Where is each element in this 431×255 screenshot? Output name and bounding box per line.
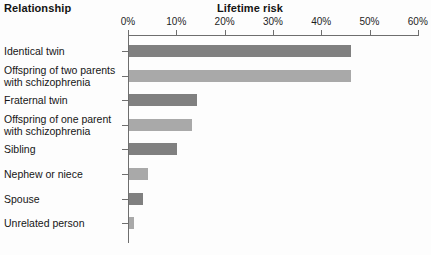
x-axis-tick-mark [418,30,419,35]
category-label: Offspring of two parents with schizophre… [4,64,115,88]
y-axis-tick-mark [122,223,128,224]
category-label: Unrelated person [4,217,85,229]
category-label: Identical twin [4,45,65,57]
x-axis-tick-mark [273,30,274,35]
category-label: Nephew or niece [4,168,83,180]
y-axis-tick-mark [122,199,128,200]
bar [129,119,192,131]
y-axis-tick-mark [122,51,128,52]
x-axis-tick-mark [370,30,371,35]
bar [129,45,351,57]
x-axis-tick-mark [321,30,322,35]
y-axis-tick-mark [122,76,128,77]
bar [129,143,177,155]
x-axis-tick-mark [176,30,177,35]
x-axis-tick-mark [225,30,226,35]
y-axis-tick-mark [122,174,128,175]
lifetime-risk-chart: Relationship Lifetime risk 0%10%20%30%40… [0,0,431,255]
bar [129,168,148,180]
category-label: Fraternal twin [4,94,68,106]
category-label: Sibling [4,143,36,155]
x-axis-tick-mark [128,30,129,35]
plot-area: Identical twinOffspring of two parents w… [0,0,431,255]
y-axis-tick-mark [122,149,128,150]
bar [129,193,143,205]
category-label: Spouse [4,193,40,205]
category-label: Offspring of one parent with schizophren… [4,113,111,137]
y-axis-tick-mark [122,125,128,126]
bar [129,70,351,82]
y-axis-tick-mark [122,100,128,101]
bar [129,94,197,106]
bar [129,217,134,229]
